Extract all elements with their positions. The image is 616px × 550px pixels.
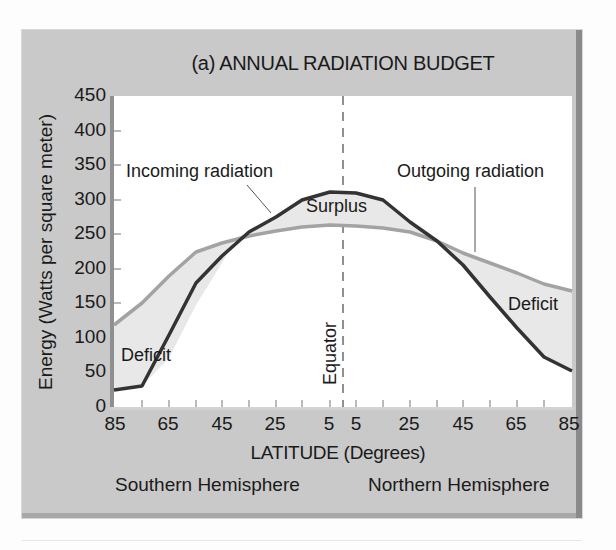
y-tick-label: 450: [56, 84, 106, 106]
x-tick-label: 65: [496, 413, 536, 435]
deficit-label-south: Deficit: [121, 345, 171, 366]
incoming-leader-line: [247, 185, 271, 213]
y-tick-label: 300: [56, 188, 106, 210]
y-axis-line: [110, 96, 114, 409]
y-tick-label: 100: [56, 326, 106, 348]
incoming-radiation-label: Incoming radiation: [126, 161, 273, 182]
southern-hemisphere-label: Southern Hemisphere: [115, 474, 300, 496]
y-tick-label: 50: [56, 360, 106, 382]
y-axis-label: Energy (Watts per square meter): [35, 114, 57, 390]
northern-hemisphere-label: Northern Hemisphere: [368, 474, 550, 496]
y-tick-label: 350: [56, 153, 106, 175]
x-tick-label: 45: [443, 413, 483, 435]
outgoing-radiation-label: Outgoing radiation: [397, 161, 544, 182]
x-tick-label: 85: [549, 413, 589, 435]
x-tick-label: 85: [95, 413, 135, 435]
x-axis-line: [110, 407, 574, 410]
x-tick-label: 45: [202, 413, 242, 435]
y-tick-label: 250: [56, 222, 106, 244]
x-tick-label: 65: [148, 413, 188, 435]
equator-label: Equator: [320, 322, 341, 385]
x-axis-label: LATITUDE (Degrees): [0, 442, 616, 464]
x-tick-label: 5: [336, 413, 376, 435]
y-tick-label: 400: [56, 119, 106, 141]
divider: [22, 540, 582, 541]
deficit-label-north: Deficit: [508, 294, 558, 315]
x-tick-label: 25: [389, 413, 429, 435]
x-tick-label: 25: [255, 413, 295, 435]
y-tick-label: 200: [56, 257, 106, 279]
y-tick-label: 150: [56, 291, 106, 313]
surplus-label: Surplus: [306, 196, 367, 217]
